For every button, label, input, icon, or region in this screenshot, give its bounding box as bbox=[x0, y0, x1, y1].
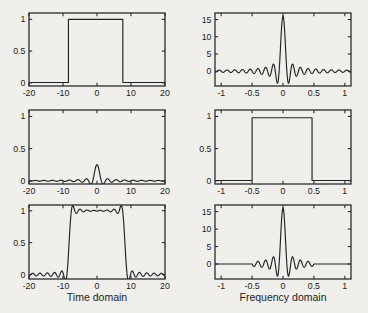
x-tick-label: 1 bbox=[342, 281, 347, 291]
tick-marks bbox=[29, 13, 165, 86]
curve-rect-pulse-frequency bbox=[215, 118, 351, 181]
axes-box bbox=[215, 110, 351, 184]
y-tick-label: 10 bbox=[202, 32, 212, 42]
axes-box bbox=[215, 13, 351, 86]
scanned-figure-page: -20-100102000.51-1-0.500.51051015-20-100… bbox=[0, 0, 368, 313]
axes-box bbox=[29, 205, 165, 279]
tick-marks bbox=[215, 205, 351, 279]
subplot-sinc-time-small: -20-100102000.51 bbox=[13, 110, 170, 196]
y-tick-label: 0 bbox=[21, 270, 26, 280]
tick-marks bbox=[215, 13, 351, 86]
y-tick-label: 1 bbox=[21, 111, 26, 121]
x-tick-label: -10 bbox=[57, 186, 70, 196]
subplot-rect-pulse-frequency: -1-0.500.5100.51 bbox=[199, 110, 351, 196]
y-tick-label: 0 bbox=[207, 66, 212, 76]
subplot-gibbs-reconstruction-time: -20-100102000.51Time domain bbox=[13, 205, 170, 303]
curve-sinc-frequency-full bbox=[215, 16, 351, 83]
y-tick-label: 0.5 bbox=[13, 238, 25, 248]
tick-marks bbox=[215, 110, 351, 184]
x-tick-label: 0 bbox=[95, 88, 100, 98]
x-tick-label: 1 bbox=[342, 186, 347, 196]
x-tick-label: -20 bbox=[23, 186, 36, 196]
x-tick-label: -20 bbox=[23, 281, 36, 291]
axes-box bbox=[215, 205, 351, 279]
y-tick-label: 10 bbox=[202, 224, 212, 234]
x-tick-label: -0.5 bbox=[245, 186, 260, 196]
y-tick-label: 0 bbox=[207, 259, 212, 269]
x-tick-label: 0 bbox=[281, 281, 286, 291]
x-tick-label: 20 bbox=[160, 186, 170, 196]
x-tick-label: 0.5 bbox=[308, 88, 320, 98]
axes-box bbox=[29, 110, 165, 184]
y-tick-label: 15 bbox=[202, 15, 212, 25]
y-tick-label: 5 bbox=[207, 242, 212, 252]
x-tick-label: -1 bbox=[217, 281, 225, 291]
x-tick-label: 0 bbox=[281, 186, 286, 196]
x-tick-label: -1 bbox=[217, 186, 225, 196]
x-tick-label: 10 bbox=[126, 281, 136, 291]
x-tick-label: 1 bbox=[342, 88, 347, 98]
axis-label-windowed-sinc-frequency: Frequency domain bbox=[240, 291, 327, 303]
fourier-transform-pairs-figure: -20-100102000.51-1-0.500.51051015-20-100… bbox=[0, 0, 368, 313]
x-tick-label: 20 bbox=[160, 281, 170, 291]
x-tick-label: 0 bbox=[95, 186, 100, 196]
y-tick-label: 1 bbox=[21, 14, 26, 24]
axes-box bbox=[29, 13, 165, 86]
subplot-rect-pulse-time: -20-100102000.51 bbox=[13, 13, 170, 98]
x-tick-label: -10 bbox=[57, 88, 70, 98]
x-tick-label: 0 bbox=[95, 281, 100, 291]
y-tick-label: 1 bbox=[21, 206, 26, 216]
y-tick-label: 0.5 bbox=[13, 144, 25, 154]
curve-gibbs-reconstruction-time bbox=[29, 206, 165, 281]
y-tick-label: 15 bbox=[202, 207, 212, 217]
x-tick-label: -0.5 bbox=[245, 88, 260, 98]
x-tick-label: 0 bbox=[281, 88, 286, 98]
axis-label-gibbs-reconstruction-time: Time domain bbox=[67, 291, 127, 303]
x-tick-label: 10 bbox=[126, 186, 136, 196]
x-tick-label: -10 bbox=[57, 281, 70, 291]
x-tick-label: -1 bbox=[217, 88, 225, 98]
subplot-sinc-frequency-full: -1-0.500.51051015 bbox=[202, 13, 351, 98]
x-tick-label: 20 bbox=[160, 88, 170, 98]
y-tick-label: 1 bbox=[207, 111, 212, 121]
tick-marks bbox=[29, 110, 165, 184]
y-tick-label: 5 bbox=[207, 49, 212, 59]
x-tick-label: 0.5 bbox=[308, 186, 320, 196]
curve-rect-pulse-time bbox=[29, 19, 165, 82]
x-tick-label: -0.5 bbox=[245, 281, 260, 291]
y-tick-label: 0 bbox=[21, 176, 26, 186]
x-tick-label: 10 bbox=[126, 88, 136, 98]
y-tick-label: 0.5 bbox=[13, 46, 25, 56]
x-tick-label: -20 bbox=[23, 88, 36, 98]
y-tick-label: 0 bbox=[21, 78, 26, 88]
tick-marks bbox=[29, 205, 165, 279]
y-tick-label: 0.5 bbox=[199, 144, 211, 154]
subplot-windowed-sinc-frequency: -1-0.500.51051015Frequency domain bbox=[202, 205, 351, 303]
y-tick-label: 0 bbox=[207, 176, 212, 186]
x-tick-label: 0.5 bbox=[308, 281, 320, 291]
curve-windowed-sinc-frequency bbox=[215, 208, 351, 276]
